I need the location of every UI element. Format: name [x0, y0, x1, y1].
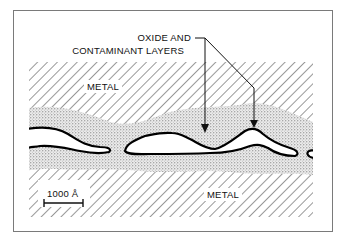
- metal-interface-diagram: OXIDE AND CONTAMINANT LAYERS METAL METAL…: [0, 0, 347, 244]
- scale-bar-label: 1000 Å: [47, 188, 79, 199]
- void-right-edge: [307, 150, 315, 158]
- lower-metal-label: METAL: [207, 189, 239, 200]
- callout-label-line2: CONTAMINANT LAYERS: [72, 45, 184, 56]
- callout-label-line1: OXIDE AND: [137, 32, 191, 43]
- upper-metal-label: METAL: [87, 81, 119, 92]
